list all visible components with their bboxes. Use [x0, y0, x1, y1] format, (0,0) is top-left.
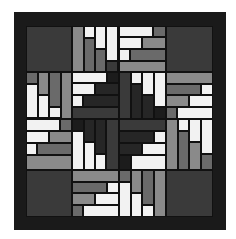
quilt-piece [119, 170, 131, 182]
quilt-piece [166, 84, 201, 95]
quilt-piece [38, 72, 49, 95]
quilt-piece [72, 119, 84, 131]
quilt-piece [131, 193, 142, 217]
quilt-piece [72, 205, 83, 217]
quilt-piece [166, 119, 178, 170]
quilt-piece [142, 72, 154, 95]
quilt-piece [130, 49, 166, 61]
quilt-piece [84, 26, 95, 38]
quilt-piece [26, 143, 37, 155]
quilt-piece [142, 95, 154, 119]
quilt-piece [166, 170, 213, 217]
quilt-piece [142, 170, 154, 205]
quilt-piece [72, 95, 83, 107]
quilt-piece [154, 131, 166, 143]
quilt-piece [84, 38, 95, 72]
quilt-piece [119, 49, 130, 61]
quilt-piece [189, 95, 213, 107]
quilt-piece [153, 26, 166, 37]
quilt-piece [142, 143, 166, 155]
quilt-piece [49, 107, 61, 118]
quilt-piece [49, 72, 61, 107]
quilt-piece [106, 119, 119, 170]
quilt-piece [26, 155, 72, 170]
quilt-piece [95, 193, 119, 205]
quilt-piece [26, 84, 38, 118]
quilt-piece [119, 119, 166, 131]
quilt-piece [95, 49, 106, 72]
quilt-piece [60, 119, 72, 131]
quilt-piece [201, 154, 213, 170]
quilt-piece [119, 131, 154, 143]
quilt-piece [119, 72, 131, 119]
quilt-piece [131, 84, 142, 119]
quilt-piece [119, 26, 153, 37]
quilt-piece [83, 205, 119, 217]
quilt-piece [107, 182, 119, 193]
quilt-piece [72, 107, 119, 119]
quilt-piece [131, 170, 142, 193]
quilt-piece [61, 72, 72, 119]
quilt-piece [154, 170, 166, 217]
quilt-piece [26, 26, 72, 72]
quilt-piece [95, 26, 106, 49]
quilt-piece [177, 107, 213, 119]
quilt-piece [106, 61, 118, 72]
quilt-piece [142, 205, 154, 217]
quilt-piece [72, 83, 95, 95]
quilt-piece [142, 37, 166, 49]
quilt-piece [26, 72, 38, 84]
quilt-piece [201, 84, 213, 95]
quilt-piece [37, 143, 72, 155]
quilt-piece [26, 170, 72, 217]
quilt-piece [26, 131, 49, 143]
quilt-pieces [26, 26, 213, 217]
quilt-piece [38, 95, 49, 118]
quilt-piece [95, 154, 106, 170]
quilt-piece [107, 72, 119, 83]
quilt-border [14, 12, 226, 230]
quilt-piece [83, 95, 119, 107]
quilt-piece [72, 193, 95, 205]
quilt-piece [166, 26, 213, 72]
quilt-piece [189, 119, 201, 142]
quilt-piece [178, 119, 189, 131]
quilt-piece [95, 119, 106, 154]
quilt-piece [119, 61, 166, 72]
quilt-piece [72, 170, 119, 182]
quilt-piece [72, 72, 107, 83]
quilt-piece [84, 142, 95, 170]
quilt-piece [201, 119, 213, 154]
quilt-piece [95, 83, 119, 95]
quilt-piece [166, 72, 213, 84]
quilt-piece [189, 142, 201, 170]
quilt-piece [72, 182, 107, 193]
quilt-piece [72, 131, 84, 170]
quilt-piece [154, 72, 166, 107]
quilt-piece [72, 26, 84, 72]
quilt-piece [26, 119, 60, 131]
quilt-piece [154, 107, 166, 119]
quilt-piece [166, 107, 177, 119]
quilt-piece [119, 155, 131, 170]
quilt-piece [119, 182, 131, 217]
quilt-piece [84, 119, 95, 142]
quilt-piece [49, 131, 72, 143]
quilt-piece [131, 155, 166, 170]
quilt-piece [119, 37, 142, 49]
quilt-piece [178, 131, 189, 170]
quilt-piece [166, 95, 189, 107]
quilt-piece [106, 26, 118, 61]
quilt-piece [131, 72, 142, 84]
quilt-piece [119, 143, 142, 155]
